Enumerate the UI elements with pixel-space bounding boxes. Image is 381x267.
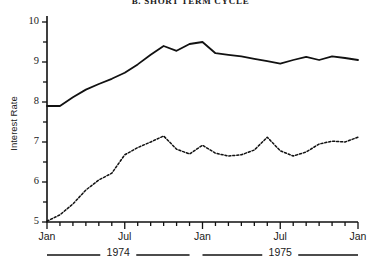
x-tick-label: Jul [260, 230, 300, 242]
chart-title: B. SHORT TERM CYCLE [0, 0, 381, 6]
x-tick-label: Jan [27, 230, 67, 242]
y-tick-label: 9 [17, 55, 39, 66]
series-group [47, 42, 358, 221]
y-tick-label: 10 [17, 15, 39, 26]
x-tick-label: Jan [183, 230, 223, 242]
y-tick-label: 8 [17, 95, 39, 106]
y-tick-label: 6 [17, 175, 39, 186]
axis-lines [47, 16, 358, 222]
year-label: 1974 [98, 246, 138, 258]
series-line-long-term-rate [47, 42, 358, 106]
y-tick-label: 5 [17, 215, 39, 226]
chart-figure: B. SHORT TERM CYCLE Interest Rate 567891… [0, 0, 381, 267]
y-axis-label: Interest Rate [8, 64, 19, 184]
x-tick-label: Jul [105, 230, 145, 242]
x-tick-label: Jan [338, 230, 378, 242]
plot-area [0, 0, 381, 267]
y-tick-label: 7 [17, 135, 39, 146]
year-label: 1975 [260, 246, 300, 258]
series-line-short-term-rate [47, 136, 358, 221]
axes-group [42, 16, 358, 229]
